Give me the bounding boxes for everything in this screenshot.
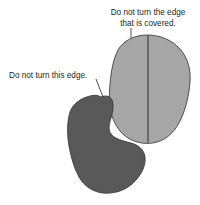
diagram-svg: Do not turn the edge that is covered. Do… bbox=[0, 0, 200, 205]
figure-canvas: Do not turn the edge that is covered. Do… bbox=[0, 0, 200, 205]
this-edge-leader-line bbox=[96, 79, 103, 97]
covered-edge-note-line2: that is covered. bbox=[120, 19, 176, 28]
light-blob-shape bbox=[109, 35, 190, 143]
covered-edge-note-line1: Do not turn the edge bbox=[111, 8, 186, 17]
this-edge-note-line1: Do not turn this edge. bbox=[9, 71, 87, 80]
